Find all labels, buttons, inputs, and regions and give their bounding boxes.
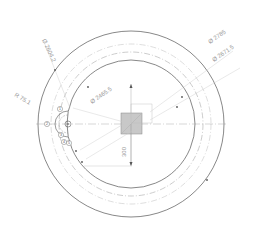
leader-left-diag-2 [86,125,142,159]
dimension-dia-2785: Ø 2785 [207,28,227,45]
callout-1: 1 [57,106,62,111]
arrow-up-icon [130,84,133,88]
callout-3: 3 [58,132,63,137]
svg-text:2: 2 [46,122,48,126]
arrow-down-icon [130,162,133,166]
marker-dot [176,106,178,108]
marker-dot [181,96,183,98]
detail-center-dot [67,123,69,125]
svg-text:3: 3 [60,133,62,137]
dimension-dia-2671: Ø 2671.5 [211,43,235,62]
dimension-300: 300 [121,146,127,157]
dimension-dia-2465: Ø 2465.5 [89,85,113,104]
callout-4: 4 [61,139,66,144]
svg-text:5: 5 [68,141,70,145]
callout-2: 2 [44,121,49,126]
marker-dot [206,179,208,181]
marker-dot [81,161,83,163]
leader-dia-2671 [150,68,240,120]
dimension-r-75: R 75.1 [14,92,33,106]
svg-text:1: 1 [59,107,61,111]
svg-text:4: 4 [63,140,65,144]
marker-dot [75,150,77,152]
marker-dot [87,86,89,88]
marker-dot [54,69,56,71]
callout-5: 5 [66,140,71,145]
dimension-dia-2604: Ø 2604.2 [41,38,57,64]
technical-drawing: 300 Ø 2785 Ø 2671.5 Ø 2604.2 R 75.1 Ø 24… [0,0,257,226]
